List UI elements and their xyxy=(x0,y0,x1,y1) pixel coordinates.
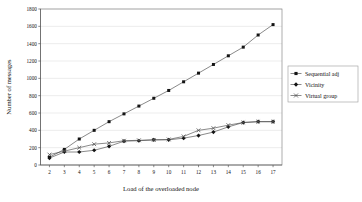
marker-square xyxy=(212,63,215,66)
marker-diamond xyxy=(196,133,200,137)
y-tick-label: 0 xyxy=(34,162,37,168)
y-axis-title: Number of messages xyxy=(5,59,12,115)
gridlines-group xyxy=(41,9,283,148)
marker-square xyxy=(167,89,170,92)
x-tick-label: 6 xyxy=(108,169,111,175)
x-tick-label: 5 xyxy=(93,169,96,175)
y-tick-label: 1000 xyxy=(27,75,38,81)
legend: Sequential adjVicinityVirtual group xyxy=(288,66,358,102)
y-tick-label: 1200 xyxy=(27,58,38,64)
x-tick-label: 10 xyxy=(166,169,172,175)
marker-square xyxy=(257,34,260,37)
y-tick-label: 800 xyxy=(29,93,37,99)
series-line xyxy=(49,122,273,155)
marker-square xyxy=(294,72,297,75)
x-tick-label: 13 xyxy=(211,169,217,175)
x-axis-ticks: 234567891011121314151617 xyxy=(48,165,276,175)
line-chart: 020040060080010001200140016001800 234567… xyxy=(0,0,362,202)
y-axis-ticks: 020040060080010001200140016001800 xyxy=(27,6,41,168)
x-tick-label: 11 xyxy=(181,169,186,175)
marker-square xyxy=(122,112,125,115)
marker-square xyxy=(272,23,275,26)
marker-square xyxy=(152,97,155,100)
legend-item-label: Virtual group xyxy=(305,93,337,99)
legend-item-label: Vicinity xyxy=(305,82,324,88)
x-tick-label: 16 xyxy=(256,169,262,175)
marker-square xyxy=(78,138,81,141)
marker-square xyxy=(182,80,185,83)
x-tick-label: 9 xyxy=(152,169,155,175)
x-axis-title: Load of the overloaded node xyxy=(123,185,199,192)
marker-square xyxy=(242,46,245,49)
y-tick-label: 1600 xyxy=(27,23,38,29)
x-tick-label: 17 xyxy=(270,169,276,175)
y-tick-label: 400 xyxy=(29,127,37,133)
marker-diamond xyxy=(294,82,298,86)
y-tick-label: 1800 xyxy=(27,6,38,12)
x-tick-label: 14 xyxy=(226,169,232,175)
marker-diamond xyxy=(211,130,215,134)
marker-square xyxy=(227,54,230,57)
marker-diamond xyxy=(77,150,81,154)
x-tick-label: 15 xyxy=(241,169,247,175)
x-tick-label: 12 xyxy=(196,169,202,175)
plot-area-border xyxy=(41,9,283,165)
marker-square xyxy=(197,72,200,75)
legend-item-sequential-adj[interactable]: Sequential adj xyxy=(291,71,340,77)
legend-item-vicinity[interactable]: Vicinity xyxy=(291,82,325,88)
x-tick-label: 3 xyxy=(63,169,66,175)
x-tick-label: 2 xyxy=(48,169,51,175)
legend-item-label: Sequential adj xyxy=(305,71,339,77)
marker-square xyxy=(137,105,140,108)
chart-figure: 020040060080010001200140016001800 234567… xyxy=(0,0,362,202)
plot-frame-group xyxy=(41,9,283,165)
x-tick-label: 4 xyxy=(78,169,81,175)
marker-square xyxy=(93,129,96,132)
y-tick-label: 1400 xyxy=(27,41,38,47)
axis-lines xyxy=(41,9,283,165)
y-tick-label: 600 xyxy=(29,110,37,116)
marker-diamond xyxy=(92,148,96,152)
x-tick-label: 7 xyxy=(123,169,126,175)
series-line xyxy=(49,25,273,158)
y-tick-label: 200 xyxy=(29,145,37,151)
series-virtual-group xyxy=(48,120,275,157)
x-tick-label: 8 xyxy=(138,169,141,175)
legend-item-virtual-group[interactable]: Virtual group xyxy=(291,93,338,99)
marker-square xyxy=(108,120,111,123)
